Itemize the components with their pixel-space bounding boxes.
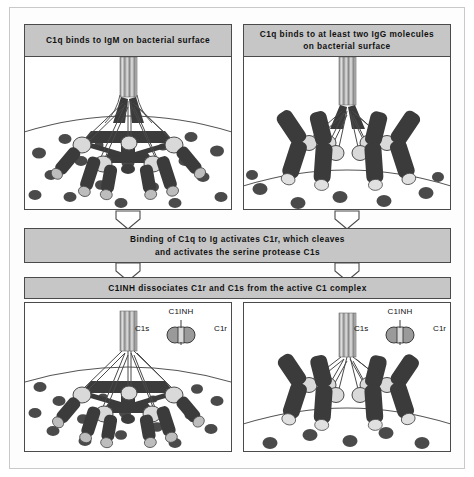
c1inh-label: C1INH <box>354 307 446 316</box>
c1inh-label: C1INH <box>135 307 227 316</box>
c1inh-c1r-c1s-complex-icon <box>166 320 196 346</box>
process-box-c1r-activation: Binding of C1q to Ig activates C1r, whic… <box>24 228 451 263</box>
c1inh-complex-label-right: C1INH C1s C1r <box>354 307 446 347</box>
c1s-label: C1s <box>135 324 149 333</box>
c1s-label: C1s <box>354 324 368 333</box>
arrow-down-left-1 <box>113 210 143 230</box>
complement-pathway-figure: C1q binds to IgM on bacterial surface <box>0 0 474 477</box>
c1q-igg-bacterial-surface-illustration <box>244 57 450 209</box>
process-box-2-line-1: C1INH dissociates C1r and C1s from the a… <box>108 282 367 294</box>
c1inh-complex-label-left: C1INH C1s C1r <box>135 307 227 347</box>
c1q-igm-bacterial-surface-illustration <box>25 57 231 209</box>
panel-top-right: C1q binds to at least two IgG molecules … <box>243 24 451 210</box>
panel-top-left: C1q binds to IgM on bacterial surface <box>24 24 232 210</box>
c1r-label: C1r <box>433 324 446 333</box>
panel-top-right-header-line-2: on bacterial surface <box>303 41 390 52</box>
panel-top-right-header: C1q binds to at least two IgG molecules … <box>244 25 450 57</box>
panel-bottom-right: C1INH C1s C1r <box>243 302 451 452</box>
panel-bottom-left: C1INH C1s C1r <box>24 302 232 452</box>
process-box-1-line-1: Binding of C1q to Ig activates C1r, whic… <box>130 233 345 245</box>
bacterial-surface <box>244 170 450 209</box>
panel-top-right-header-line-1: C1q binds to at least two IgG molecules <box>260 29 434 40</box>
arrow-down-right-1 <box>332 210 362 230</box>
process-box-1-line-2: and activates the serine protease C1s <box>155 246 320 258</box>
panel-top-left-header: C1q binds to IgM on bacterial surface <box>25 25 231 57</box>
c1inh-c1r-c1s-complex-icon <box>385 320 415 346</box>
process-box-c1inh-dissociation: C1INH dissociates C1r and C1s from the a… <box>24 277 451 299</box>
panel-top-left-body <box>25 57 231 209</box>
c1r-label: C1r <box>214 324 227 333</box>
panel-top-right-body <box>244 57 450 209</box>
